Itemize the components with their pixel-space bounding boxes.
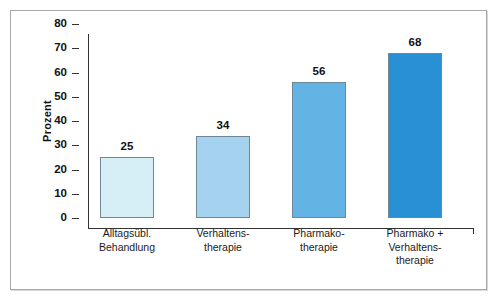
y-axis-tick: [72, 24, 79, 25]
category-label: Pharmako- therapie: [271, 227, 367, 254]
y-axis-label: 70: [33, 42, 67, 54]
category-label: Alltagsübl. Behandlung: [79, 227, 175, 254]
y-axis-tick: [72, 48, 79, 49]
bar[interactable]: [100, 157, 154, 218]
category-label: Verhaltens- therapie: [175, 227, 271, 254]
figure-frame: Prozent 01020304050607080 25Alltagsübl. …: [10, 10, 487, 290]
bar-value-label: 34: [193, 120, 253, 132]
y-axis-label: 80: [33, 18, 67, 30]
y-axis-tick: [72, 218, 79, 219]
bar-value-label: 25: [97, 141, 157, 153]
y-axis-label: 10: [33, 188, 67, 200]
y-axis-tick: [72, 97, 79, 98]
bar[interactable]: [388, 53, 442, 218]
y-axis-label: 40: [33, 115, 67, 127]
y-axis-tick: [72, 73, 79, 74]
bar[interactable]: [292, 82, 346, 218]
y-axis-label: 20: [33, 164, 67, 176]
y-axis-tick: [72, 194, 79, 195]
y-axis-line: [88, 34, 89, 229]
y-axis-tick: [72, 121, 79, 122]
bar-value-label: 56: [289, 66, 349, 78]
y-axis-label: 60: [33, 67, 67, 79]
y-axis-tick: [72, 170, 79, 171]
y-axis-label: 30: [33, 139, 67, 151]
bar[interactable]: [196, 136, 250, 218]
y-axis-tick: [72, 145, 79, 146]
category-label: Pharmako + Verhaltens- therapie: [367, 227, 463, 268]
y-axis-label: 0: [33, 212, 67, 224]
x-axis-end-tick: [473, 228, 474, 234]
bar-value-label: 68: [385, 37, 445, 49]
y-axis-label: 50: [33, 91, 67, 103]
